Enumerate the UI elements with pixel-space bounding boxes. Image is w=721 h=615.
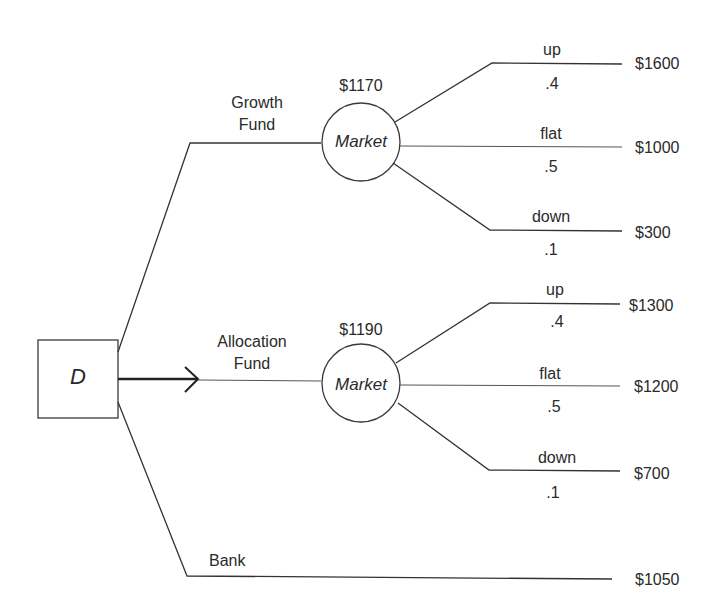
outcome-allocation-up — [396, 303, 620, 363]
growth-up-probability: .4 — [545, 74, 558, 93]
growth-down-probability: .1 — [544, 240, 557, 259]
allocation-expected-value: $1190 — [339, 320, 382, 339]
allocation-flat-state: flat — [539, 364, 560, 383]
allocation-down-probability: .1 — [546, 483, 559, 502]
growth-expected-value: $1170 — [339, 76, 382, 95]
allocation-up-state: up — [546, 280, 564, 299]
growth-chance-node-label: Market — [335, 132, 387, 151]
outcome-allocation-flat — [400, 385, 620, 386]
outcome-growth-up — [395, 63, 622, 122]
branch-bank — [118, 402, 612, 579]
growth-flat-state: flat — [540, 124, 561, 143]
allocation-chance-node-label: Market — [335, 375, 387, 394]
allocation-flat-probability: .5 — [547, 397, 560, 416]
allocation-up-payoff: $1300 — [629, 296, 674, 315]
growth-down-state: down — [532, 207, 570, 226]
allocation-fund-label-line1: Allocation — [217, 332, 286, 351]
bank-payoff: $1050 — [635, 570, 680, 589]
branch-allocation-fund — [198, 380, 321, 381]
allocation-down-state: down — [538, 448, 576, 467]
growth-up-state: up — [543, 40, 561, 59]
outcome-growth-flat — [400, 146, 622, 147]
growth-fund-label-line2: Fund — [239, 115, 275, 134]
allocation-fund-label-line2: Fund — [234, 354, 270, 373]
outcome-growth-down — [393, 163, 622, 231]
allocation-down-payoff: $700 — [634, 464, 670, 483]
decision-node-label: D — [70, 367, 86, 386]
outcome-allocation-down — [398, 403, 620, 471]
branch-growth-fund — [118, 143, 321, 352]
allocation-flat-payoff: $1200 — [634, 377, 679, 396]
growth-up-payoff: $1600 — [635, 54, 680, 73]
allocation-up-probability: .4 — [550, 312, 563, 331]
growth-down-payoff: $300 — [635, 223, 671, 242]
bank-label: Bank — [209, 551, 245, 570]
growth-flat-payoff: $1000 — [635, 138, 680, 157]
growth-flat-probability: .5 — [544, 157, 557, 176]
growth-fund-label-line1: Growth — [231, 93, 283, 112]
